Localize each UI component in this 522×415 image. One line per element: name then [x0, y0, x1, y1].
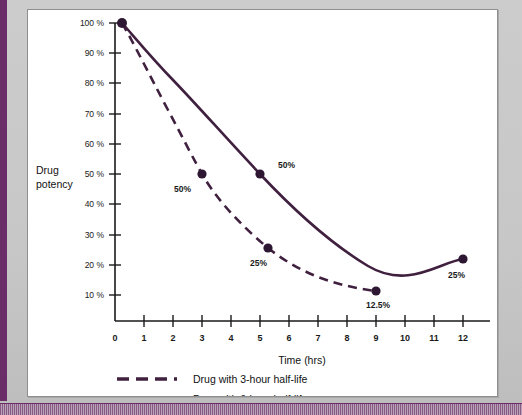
marker-6hr-50-percent [255, 169, 264, 178]
x-tick-label-8: 8 [344, 333, 349, 343]
x-tick-label-10: 10 [400, 333, 410, 343]
y-tick-label-50: 50 % [85, 169, 105, 179]
y-tick-label-70: 70 % [85, 109, 105, 119]
decorative-bottom-accent-bar [0, 403, 522, 415]
y-tick-label-100: 100 % [80, 18, 105, 28]
x-tick-label-1: 1 [141, 333, 146, 343]
marker-start-100-percent [117, 18, 127, 28]
y-axis-title-line1: Drug [36, 164, 59, 176]
x-tick-label-3: 3 [199, 333, 204, 343]
legend: Drug with 3-hour half-life Drug with 6-h… [117, 373, 308, 396]
y-axis-tick-labels: 100 % 90 % 80 % 70 % 60 % 50 % 40 % 30 %… [80, 18, 105, 300]
annotation-3hr-25-percent: 25% [250, 258, 267, 268]
marker-6hr-25-percent [458, 254, 467, 263]
decorative-left-accent-bar [0, 0, 7, 401]
x-tick-label-7: 7 [315, 333, 320, 343]
y-axis-title-line2: potency [36, 178, 74, 190]
chart-figure-frame: 100 % 90 % 80 % 70 % 60 % 50 % 40 % 30 %… [27, 9, 498, 397]
annotation-6hr-50-percent: 50% [278, 160, 295, 170]
marker-3hr-12point5-percent [371, 286, 380, 295]
y-tick-label-80: 80 % [85, 78, 105, 88]
x-tick-label-9: 9 [373, 333, 378, 343]
y-tick-label-40: 40 % [85, 199, 105, 209]
x-axis-title: Time (hrs) [278, 354, 325, 366]
legend-item-6-hour[interactable]: Drug with 6-hour half-life [117, 393, 308, 396]
x-tick-label-6: 6 [286, 333, 291, 343]
x-tick-label-0: 0 [112, 333, 117, 343]
x-axis-tick-labels: 0 1 2 3 4 5 6 7 8 9 10 11 12 [112, 333, 468, 343]
x-tick-label-5: 5 [257, 333, 262, 343]
legend-item-3-hour[interactable]: Drug with 3-hour half-life [117, 373, 308, 385]
y-axis-title: Drug potency [36, 164, 74, 190]
x-tick-label-11: 11 [429, 333, 439, 343]
x-tick-label-4: 4 [228, 333, 233, 343]
y-tick-label-60: 60 % [85, 139, 105, 149]
x-tick-label-12: 12 [458, 333, 468, 343]
curve-3-hour-half-life [122, 23, 376, 291]
legend-label-3-hour: Drug with 3-hour half-life [193, 373, 308, 385]
marker-3hr-50-percent [197, 169, 206, 178]
curve-6-hour-half-life [122, 23, 463, 276]
y-tick-label-90: 90 % [85, 48, 105, 58]
legend-label-6-hour: Drug with 6-hour half-life [193, 393, 308, 396]
marker-3hr-25-percent [263, 243, 272, 252]
y-tick-label-20: 20 % [85, 260, 105, 270]
y-tick-label-10: 10 % [85, 290, 105, 300]
annotation-3hr-50-percent: 50% [174, 184, 191, 194]
annotation-3hr-12point5-percent: 12.5% [366, 300, 391, 310]
y-tick-label-30: 30 % [85, 230, 105, 240]
annotation-6hr-25-percent: 25% [448, 270, 465, 280]
x-tick-label-2: 2 [170, 333, 175, 343]
drug-potency-decay-chart: 100 % 90 % 80 % 70 % 60 % 50 % 40 % 30 %… [28, 10, 497, 396]
